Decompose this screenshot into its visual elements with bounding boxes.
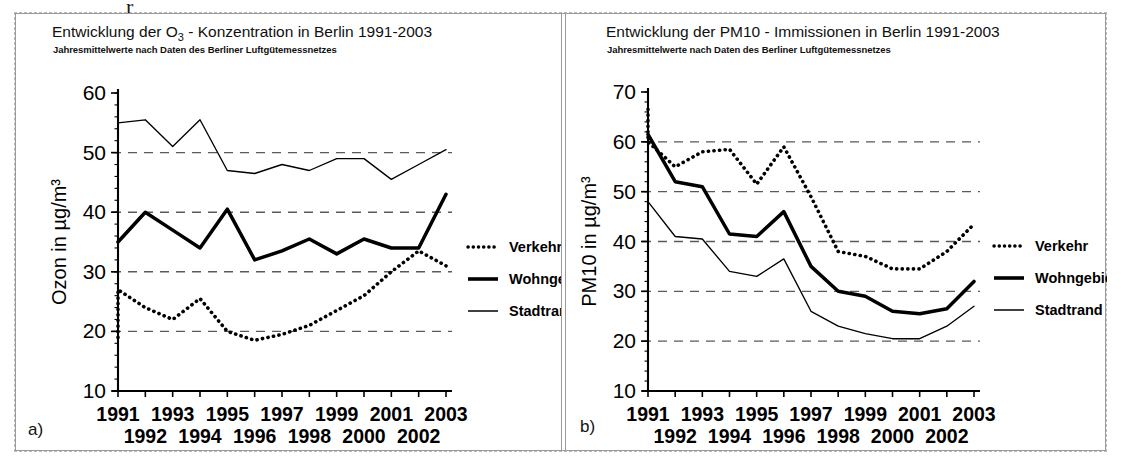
svg-text:1998: 1998 [816, 425, 860, 447]
svg-text:2002: 2002 [925, 425, 969, 447]
svg-text:40: 40 [83, 200, 106, 223]
svg-text:20: 20 [613, 329, 636, 352]
svg-text:1992: 1992 [653, 425, 697, 447]
svg-text:1995: 1995 [206, 403, 250, 425]
chart-panel-a: Entwicklung der O3 - Konzentration in Be… [15, 13, 561, 451]
svg-text:60: 60 [613, 130, 636, 153]
svg-text:1994: 1994 [708, 425, 752, 447]
svg-text:1996: 1996 [233, 425, 277, 447]
svg-text:10: 10 [83, 379, 106, 402]
chart-b-plot: 10203040506070PM10 in µg/m³1991199319951… [562, 14, 1107, 452]
svg-text:1993: 1993 [681, 403, 725, 425]
svg-text:2000: 2000 [871, 425, 915, 447]
svg-text:1994: 1994 [178, 425, 222, 447]
svg-text:30: 30 [83, 260, 106, 283]
svg-text:50: 50 [613, 180, 636, 203]
svg-text:2002: 2002 [397, 425, 441, 447]
svg-text:1992: 1992 [124, 425, 168, 447]
svg-text:PM10 in µg/m³: PM10 in µg/m³ [578, 176, 600, 307]
svg-text:70: 70 [613, 80, 636, 103]
svg-text:2001: 2001 [370, 403, 414, 425]
svg-text:20: 20 [83, 319, 106, 342]
svg-text:40: 40 [613, 230, 636, 253]
svg-text:1999: 1999 [844, 403, 888, 425]
svg-text:2003: 2003 [952, 403, 996, 425]
svg-text:1999: 1999 [315, 403, 359, 425]
svg-text:1991: 1991 [626, 403, 670, 425]
legend-label-wohngebiet: Wohngebiet [509, 271, 562, 287]
legend-label-stadtrand: Stadtrand [1035, 302, 1103, 318]
legend-label-verkehr: Verkehr [509, 239, 562, 255]
svg-text:2003: 2003 [424, 403, 468, 425]
svg-text:1998: 1998 [288, 425, 332, 447]
svg-text:30: 30 [613, 279, 636, 302]
svg-text:1997: 1997 [260, 403, 303, 425]
svg-text:Ozon in µg/m³: Ozon in µg/m³ [48, 179, 70, 305]
legend-label-verkehr: Verkehr [1035, 238, 1089, 254]
svg-text:1997: 1997 [789, 403, 832, 425]
chart-a-plot: 102030405060Ozon in µg/m³199119931995199… [16, 14, 562, 452]
svg-text:1993: 1993 [151, 403, 195, 425]
svg-text:10: 10 [613, 379, 636, 402]
svg-text:1995: 1995 [735, 403, 779, 425]
chart-panel-b: Entwicklung der PM10 - Immissionen in Be… [561, 13, 1106, 451]
svg-text:1991: 1991 [96, 403, 140, 425]
legend-label-wohngebiet: Wohngebiet [1035, 270, 1107, 286]
svg-text:2001: 2001 [898, 403, 942, 425]
svg-text:1996: 1996 [762, 425, 806, 447]
svg-text:2000: 2000 [342, 425, 386, 447]
svg-text:60: 60 [83, 81, 106, 104]
svg-text:50: 50 [83, 141, 106, 164]
legend-label-stadtrand: Stadtrand [509, 303, 562, 319]
